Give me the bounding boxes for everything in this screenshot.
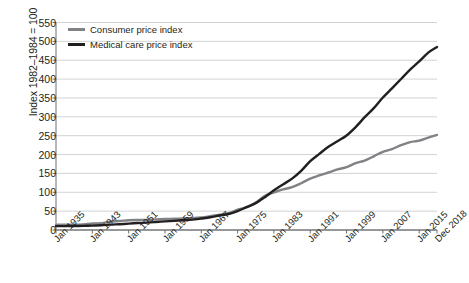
legend-color-swatch <box>68 43 85 47</box>
legend-item-label: Medical care price index <box>90 39 192 50</box>
legend-color-swatch <box>68 28 85 32</box>
legend-item-consumer-price-index: Consumer price index <box>68 24 182 35</box>
x-axis-tick-label: Jan 1983 <box>270 209 305 244</box>
x-axis-tick-label: Jan 1975 <box>234 209 269 244</box>
x-axis-tick-label: Jan 1967 <box>197 209 232 244</box>
x-axis-tick-label: Jan 2007 <box>379 209 414 244</box>
x-axis-tick-label: Jan 1959 <box>161 209 196 244</box>
x-axis-tick-label: Jan 1951 <box>125 209 160 244</box>
legend-item-medical-care-price-index: Medical care price index <box>68 39 192 50</box>
x-axis-tick-label: Jan 1935 <box>52 209 87 244</box>
x-axis-tick-label: Jan 1943 <box>88 209 123 244</box>
x-axis-tick-label: Jan 1999 <box>343 209 378 244</box>
x-axis-tick-label: Jan 1991 <box>306 209 341 244</box>
legend-item-label: Consumer price index <box>90 24 182 35</box>
